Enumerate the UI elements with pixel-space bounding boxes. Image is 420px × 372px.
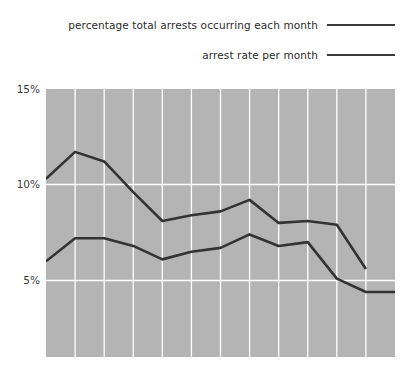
- legend-label-arrest-rate: arrest rate per month: [202, 49, 318, 61]
- legend-item-arrest-rate: arrest rate per month: [0, 44, 420, 66]
- legend-line-swatch-series-1: [327, 24, 395, 26]
- chart-figure: percentage total arrests occurring each …: [0, 0, 420, 372]
- legend-item-percentage-total-arrests: percentage total arrests occurring each …: [0, 14, 420, 36]
- plot-svg: [46, 89, 395, 357]
- data-line-series-1: [46, 152, 366, 269]
- legend-line-swatch-series-2: [327, 54, 395, 56]
- plot-area: [46, 89, 395, 357]
- y-axis-tick-label-5: 5%: [0, 274, 40, 286]
- chart-legend: percentage total arrests occurring each …: [0, 0, 420, 66]
- y-axis-tick-label-10: 10%: [0, 178, 40, 190]
- y-axis-tick-label-15: 15%: [0, 83, 40, 95]
- legend-label-percentage-total-arrests: percentage total arrests occurring each …: [68, 19, 318, 31]
